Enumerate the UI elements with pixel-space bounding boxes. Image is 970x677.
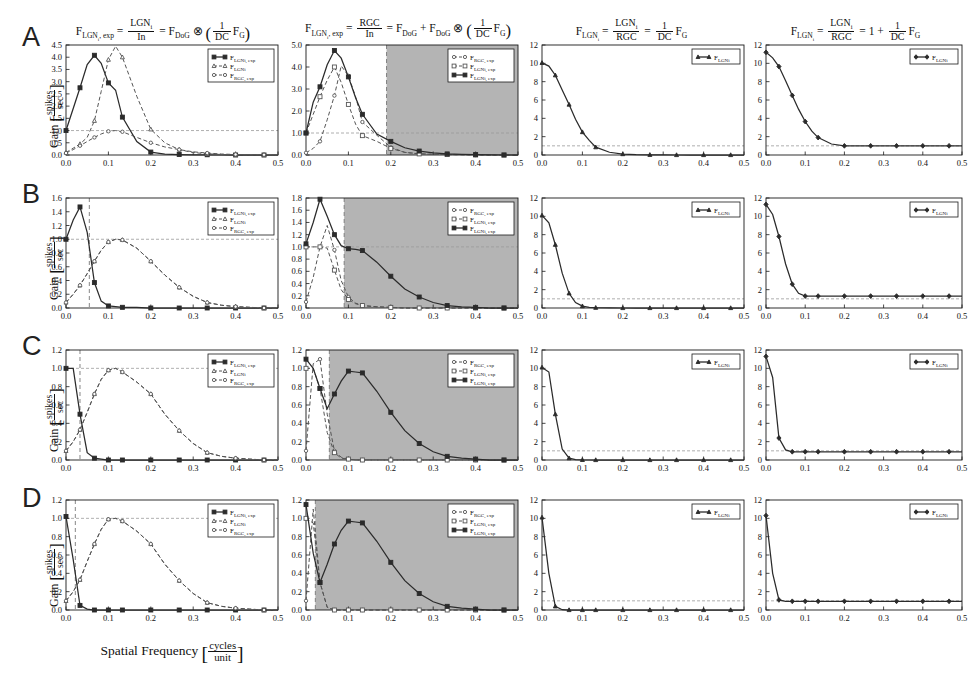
legend-marker <box>463 64 467 68</box>
y-tick-label: 0.8 <box>51 382 62 392</box>
legend-marker <box>463 510 466 513</box>
x-tick-label: 0.1 <box>800 463 811 473</box>
x-tick-label: 0.4 <box>698 311 709 321</box>
plot-axes-d1: 0.00.10.20.30.40.50.00.20.40.60.81.01.2F… <box>26 490 286 632</box>
y-tick-label: 0.0 <box>291 303 302 313</box>
legend-marker <box>463 519 467 523</box>
legend-marker <box>463 73 467 77</box>
legend-marker <box>223 55 227 59</box>
y-tick-label: 0 <box>758 455 762 465</box>
series-line <box>766 204 962 296</box>
x-tick-label: 0.2 <box>385 311 396 321</box>
x-tick-label: 0.1 <box>343 463 354 473</box>
y-tick-label: 6 <box>758 95 762 105</box>
series-line <box>542 367 744 460</box>
x-tick-label: 0.1 <box>343 311 354 321</box>
plot-axes-a4: 0.00.10.20.30.40.5024681012FLGNi <box>726 35 970 177</box>
y-tick-label: 0.0 <box>51 455 62 465</box>
y-tick-label: 1.8 <box>291 193 302 203</box>
y-tick-label: 1.0 <box>51 126 62 136</box>
y-tick-label: 0.0 <box>291 150 302 160</box>
legend-marker <box>212 378 215 381</box>
y-tick-label: 1.2 <box>291 230 302 240</box>
x-tick-label: 0.4 <box>230 158 241 168</box>
y-tick-label: 0.4 <box>51 568 62 578</box>
x-tick-label: 0.5 <box>957 613 968 623</box>
plot-axes-c2: 0.00.10.20.30.40.50.00.20.40.60.81.01.2F… <box>266 340 526 482</box>
y-tick-label: 6 <box>758 400 762 410</box>
plot-axes-c1: 0.00.10.20.30.40.50.00.20.40.60.81.01.2F… <box>26 340 286 482</box>
x-tick-label: 0.0 <box>61 463 72 473</box>
y-tick-label: 2 <box>758 437 762 447</box>
x-tick-label: 0.2 <box>839 311 850 321</box>
y-tick-label: 10 <box>754 513 763 523</box>
x-tick-label: 0.4 <box>917 613 928 623</box>
x-tick-label: 0.0 <box>537 613 548 623</box>
x-tick-label: 0.1 <box>343 613 354 623</box>
y-tick-label: 1.0 <box>291 513 302 523</box>
plot-panel-a1: 0.00.10.20.30.40.50.00.51.01.52.02.53.03… <box>26 35 286 181</box>
y-tick-label: 1.2 <box>291 495 302 505</box>
x-tick-label: 0.1 <box>103 463 114 473</box>
y-tick-label: 3.0 <box>291 84 302 94</box>
legend-marker <box>223 378 226 381</box>
y-tick-label: 4 <box>534 418 539 428</box>
legend-marker <box>452 226 456 230</box>
plot-panel-a3: 0.00.10.20.30.40.5024681012FLGNi <box>502 35 752 181</box>
y-tick-label: 0 <box>758 605 762 615</box>
x-tick-label: 0.4 <box>470 311 481 321</box>
y-tick-label: 4 <box>758 418 763 428</box>
plot-axes-a2: 0.00.10.20.30.40.50.01.02.03.04.05.0FRGC… <box>266 35 526 177</box>
y-tick-label: 0 <box>758 303 762 313</box>
x-tick-label: 0.0 <box>301 311 312 321</box>
series-line <box>766 356 962 451</box>
y-tick-label: 8 <box>534 532 538 542</box>
y-tick-label: 0.2 <box>51 437 62 447</box>
y-tick-label: 1.5 <box>51 113 62 123</box>
x-tick-label: 0.1 <box>103 158 114 168</box>
legend-marker <box>463 378 467 382</box>
x-tick-label: 0.3 <box>428 463 439 473</box>
x-tick-label: 0.1 <box>800 613 811 623</box>
y-tick-label: 0.6 <box>291 266 302 276</box>
y-tick-label: 10 <box>754 211 763 221</box>
x-tick-label: 0.3 <box>658 158 669 168</box>
y-tick-label: 8 <box>534 77 538 87</box>
y-tick-label: 0 <box>534 150 538 160</box>
y-tick-label: 3.5 <box>51 64 62 74</box>
y-tick-label: 0.5 <box>51 138 62 148</box>
x-tick-label: 0.3 <box>878 613 889 623</box>
y-tick-label: 0.8 <box>291 382 302 392</box>
y-tick-label: 3.0 <box>51 77 62 87</box>
y-tick-label: 0.4 <box>291 418 302 428</box>
x-tick-label: 0.0 <box>761 613 772 623</box>
y-tick-label: 8 <box>758 77 762 87</box>
plot-axes-c4: 0.00.10.20.30.40.5024681012FLGNi <box>726 340 970 482</box>
y-tick-label: 0 <box>534 605 538 615</box>
x-tick-label: 0.2 <box>617 613 628 623</box>
y-tick-label: 0.8 <box>291 254 302 264</box>
y-tick-label: 6 <box>758 550 762 560</box>
plot-axes-d4: 0.00.10.20.30.40.5024681012FLGNi <box>726 490 970 632</box>
plot-panel-a2: 0.00.10.20.30.40.50.01.02.03.04.05.0FRGC… <box>266 35 526 181</box>
plot-panel-c4: 0.00.10.20.30.40.5024681012FLGNi <box>726 340 970 486</box>
y-tick-label: 0.8 <box>51 532 62 542</box>
y-tick-label: 10 <box>530 363 539 373</box>
x-tick-label: 0.3 <box>188 311 199 321</box>
x-tick-label: 0.0 <box>61 311 72 321</box>
x-tick-label: 0.4 <box>230 311 241 321</box>
y-tick-label: 1.2 <box>291 345 302 355</box>
legend-marker <box>463 360 466 363</box>
x-tick-label: 0.0 <box>537 463 548 473</box>
legend-marker <box>212 55 216 59</box>
x-tick-label: 0.5 <box>957 158 968 168</box>
x-tick-label: 0.4 <box>230 613 241 623</box>
x-tick-label: 0.0 <box>537 311 548 321</box>
y-tick-label: 1.2 <box>51 221 62 231</box>
y-tick-label: 0.6 <box>51 400 62 410</box>
x-tick-label: 0.5 <box>957 311 968 321</box>
x-tick-label: 0.3 <box>878 158 889 168</box>
x-tick-label: 0.0 <box>301 158 312 168</box>
x-tick-label: 0.4 <box>470 613 481 623</box>
legend-marker <box>212 528 215 531</box>
